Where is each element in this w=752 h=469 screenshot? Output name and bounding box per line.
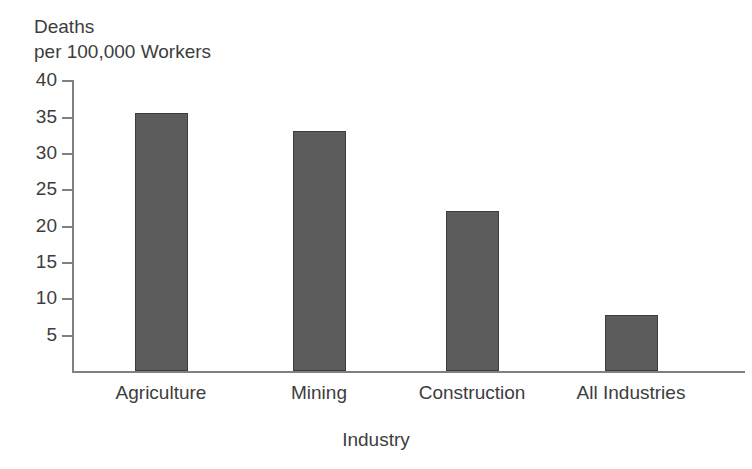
x-tick-label-agriculture: Agriculture (116, 381, 207, 405)
bar-all-industries (605, 315, 658, 371)
y-tick-mark (62, 189, 73, 191)
y-tick-mark (62, 262, 73, 264)
x-tick-label-mining: Mining (291, 381, 347, 405)
y-tick-mark (62, 298, 73, 300)
y-tick-10: 10 (0, 298, 73, 300)
y-tick-label: 5 (11, 325, 57, 344)
y-tick-label: 40 (11, 70, 57, 89)
y-tick-15: 15 (0, 262, 73, 264)
x-tick-label-all-industries: All Industries (577, 381, 686, 405)
y-tick-label: 10 (11, 288, 57, 307)
plot-area: 510152025303540 AgricultureMiningConstru… (0, 0, 752, 469)
bar-chart: Deaths per 100,000 Workers 5101520253035… (0, 0, 752, 469)
x-axis-title: Industry (0, 428, 752, 452)
y-tick-label: 20 (11, 216, 57, 235)
y-tick-label: 25 (11, 179, 57, 198)
y-tick-mark (62, 80, 73, 82)
bar-construction (446, 211, 499, 371)
y-tick-25: 25 (0, 189, 73, 191)
y-tick-mark (62, 226, 73, 228)
y-tick-mark (62, 153, 73, 155)
x-axis-line (72, 371, 745, 373)
y-tick-mark (62, 335, 73, 337)
y-tick-30: 30 (0, 153, 73, 155)
y-tick-label: 15 (11, 252, 57, 271)
y-tick-label: 30 (11, 143, 57, 162)
y-tick-35: 35 (0, 117, 73, 119)
y-tick-5: 5 (0, 335, 73, 337)
bar-agriculture (135, 113, 188, 371)
y-tick-mark (62, 117, 73, 119)
x-tick-label-construction: Construction (419, 381, 526, 405)
bar-mining (293, 131, 346, 371)
y-tick-20: 20 (0, 226, 73, 228)
y-tick-label: 35 (11, 107, 57, 126)
y-tick-40: 40 (0, 80, 73, 82)
